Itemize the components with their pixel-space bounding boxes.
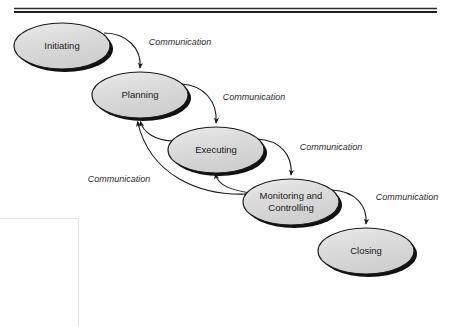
edge-label-feedback-communication: Communication — [88, 174, 151, 184]
node-monitoring-and-controlling-label-line1: Monitoring and — [260, 190, 323, 201]
edge-label-initiating-to-planning: Communication — [149, 37, 212, 47]
node-monitoring-and-controlling-label-line2: Controlling — [268, 202, 313, 213]
process-flow-diagram: Initiating Planning Executing Monitoring… — [0, 0, 452, 326]
node-executing-label: Executing — [195, 144, 237, 155]
edge-monitoring-to-executing-feedback — [216, 174, 251, 193]
scan-artifact — [0, 219, 79, 326]
edge-executing-to-planning-feedback — [141, 122, 173, 142]
node-monitoring-and-controlling[interactable]: Monitoring and Controlling — [243, 179, 342, 228]
edge-label-monitoring-to-closing: Communication — [376, 192, 439, 202]
node-initiating-label: Initiating — [44, 40, 79, 51]
node-closing[interactable]: Closing — [318, 228, 417, 277]
edge-label-executing-to-monitoring: Communication — [300, 142, 363, 152]
node-initiating[interactable]: Initiating — [14, 23, 113, 72]
node-planning[interactable]: Planning — [92, 72, 191, 121]
top-rule — [14, 9, 437, 13]
edge-label-planning-to-executing: Communication — [223, 92, 286, 102]
node-planning-label: Planning — [122, 89, 159, 100]
node-closing-label: Closing — [350, 245, 382, 256]
node-executing[interactable]: Executing — [168, 127, 267, 176]
